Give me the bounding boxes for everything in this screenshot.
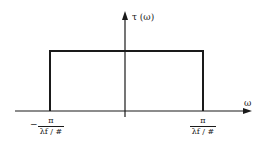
rect-function-curve [50,51,203,111]
left-tick-numerator: π [38,117,64,127]
minus-sign: − [30,120,38,129]
right-tick-denominator: λf / # [190,127,216,136]
left-tick-denominator: λf / # [38,127,64,136]
left-tick-label: − π λf / # [38,117,64,136]
x-axis-label: ω [244,99,251,108]
y-axis-label: τ (ω) [132,13,154,22]
right-tick-numerator: π [190,117,216,127]
x-axis-arrow-icon [243,108,252,114]
right-tick-label: π λf / # [190,117,216,136]
y-axis-arrow-icon [122,11,128,20]
